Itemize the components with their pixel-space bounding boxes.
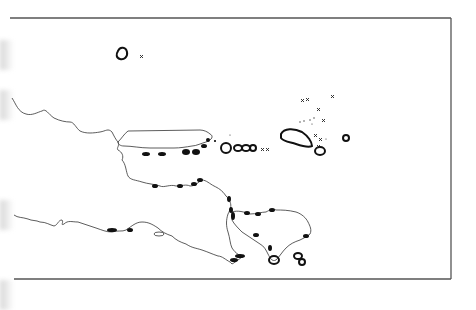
java-south-coast bbox=[14, 215, 230, 262]
nusa-penida-island bbox=[269, 256, 279, 264]
reef-marks bbox=[107, 138, 309, 262]
small-islands bbox=[117, 48, 349, 265]
islet-dots bbox=[229, 117, 326, 139]
kangean-island bbox=[281, 129, 312, 147]
nusa-barung-island bbox=[154, 232, 164, 236]
islet-markers bbox=[140, 55, 334, 151]
bawean-island bbox=[117, 48, 127, 59]
